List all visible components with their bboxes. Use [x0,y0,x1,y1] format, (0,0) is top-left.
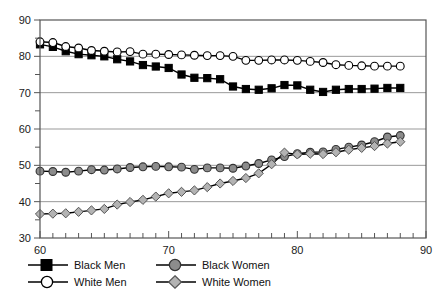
series-white-women-markers [35,137,404,219]
svg-text:60: 60 [34,244,46,256]
legend-item-black-men[interactable]: Black Men [26,256,154,273]
chart-legend: Black Men Black Women White Men White Wo… [26,256,326,290]
series-white-men-markers [36,38,404,70]
svg-text:90: 90 [420,244,432,256]
svg-text:80: 80 [19,50,31,62]
series-lines [35,38,404,219]
svg-text:70: 70 [19,87,31,99]
svg-text:70: 70 [163,244,175,256]
legend-item-black-women[interactable]: Black Women [154,256,314,273]
legend-swatch-black-men [26,258,70,272]
legend-item-white-men[interactable]: White Men [26,273,154,290]
line-chart-plot: 3040506070809060708090 [0,0,444,256]
svg-text:30: 30 [19,232,31,244]
legend-label-black-men: Black Men [74,259,125,271]
legend-swatch-black-women [154,258,198,272]
svg-text:50: 50 [19,159,31,171]
svg-text:90: 90 [19,14,31,26]
chart-container: 3040506070809060708090 Black Men Black W… [0,0,444,302]
svg-text:60: 60 [19,123,31,135]
legend-swatch-white-men [26,275,70,289]
svg-text:80: 80 [291,244,303,256]
legend-item-white-women[interactable]: White Women [154,273,314,290]
legend-swatch-white-women [154,275,198,289]
legend-label-white-women: White Women [202,276,271,288]
svg-text:40: 40 [19,196,31,208]
legend-label-white-men: White Men [74,276,127,288]
legend-label-black-women: Black Women [202,259,270,271]
